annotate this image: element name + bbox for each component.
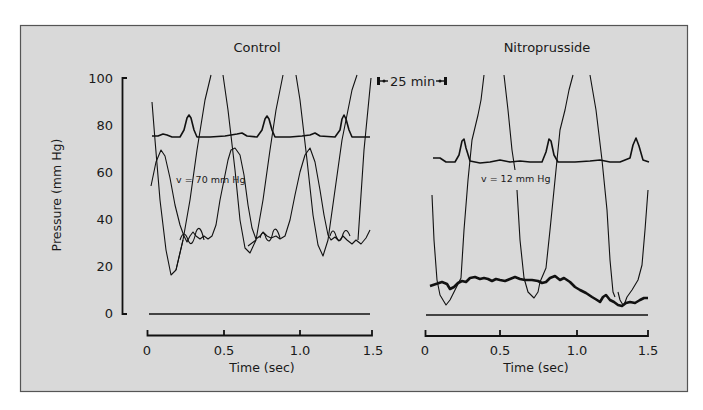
v-wave-nitro-label: v = 12 mm Hg [481,173,550,184]
y-tick-20: 20 [96,259,113,274]
x-tick-10-left: 1.0 [290,343,311,358]
y-tick-80: 80 [96,118,113,133]
nitroprusside-title: Nitroprusside [504,40,591,55]
y-axis-title: Pressure (mm Hg) [49,139,64,252]
y-tick-40: 40 [96,212,113,227]
x-tick-15-left: 1.5 [363,343,384,358]
x-tick-0-right: 0 [421,343,429,358]
hemodynamic-figure: Control Nitroprusside Pressure (mm Hg) 1… [0,0,703,410]
x-tick-05-right: 0.5 [490,343,511,358]
x-tick-0-left: 0 [143,343,151,358]
y-tick-60: 60 [96,165,113,180]
x-tick-05-left: 0.5 [214,343,235,358]
control-title: Control [234,40,281,55]
y-tick-0: 0 [105,306,113,321]
x-tick-10-right: 1.0 [567,343,588,358]
v-wave-control-label: v = 70 mm Hg [176,174,245,185]
y-tick-100: 100 [88,71,113,86]
x-axis-title-right: Time (sec) [502,360,568,375]
x-tick-15-right: 1.5 [638,343,659,358]
interval-label: 25 min [390,74,435,89]
x-axis-title-left: Time (sec) [228,360,294,375]
